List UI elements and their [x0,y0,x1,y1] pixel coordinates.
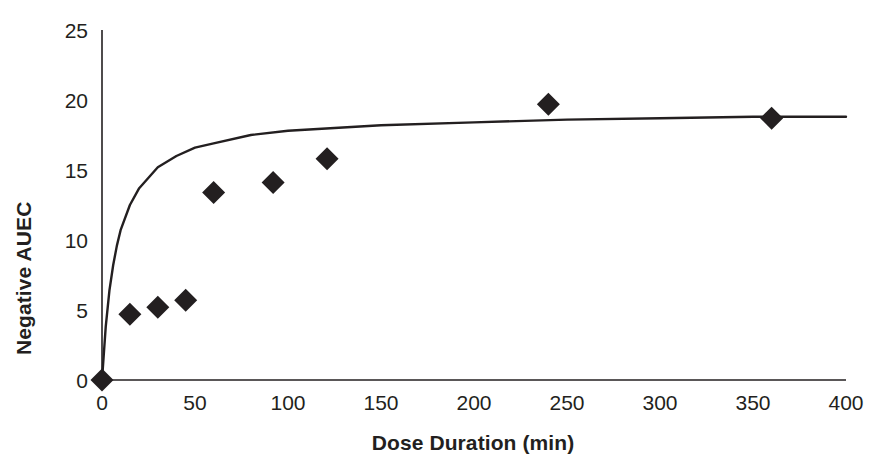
data-point-marker [146,296,169,319]
x-axis-tick-label: 250 [549,392,584,413]
x-axis-tick-label: 400 [828,392,863,413]
data-point-marker [537,93,560,116]
axis-lines [102,30,846,380]
x-axis-tick-label: 200 [456,392,491,413]
data-point-marker [174,289,197,312]
fitted-curve [102,117,846,380]
x-axis-title: Dose Duration (min) [372,431,575,455]
data-point-marker [316,147,339,170]
data-point-markers [91,93,784,392]
data-point-marker [262,171,285,194]
x-axis-tick-label: 50 [183,392,206,413]
y-axis-tick-label: 0 [40,370,88,391]
x-axis-tick-label: 150 [363,392,398,413]
x-axis-tick-label: 350 [735,392,770,413]
x-axis-tick-label: 300 [642,392,677,413]
x-axis-tick-label: 100 [270,392,305,413]
data-point-marker [118,303,141,326]
data-point-marker [91,369,114,392]
y-axis-tick-label: 10 [40,230,88,251]
data-point-marker [760,107,783,130]
chart-figure: 0510152025 050100150200250300350400 Nega… [0,0,889,473]
y-axis-tick-label: 25 [40,20,88,41]
y-axis-tick-label: 5 [40,300,88,321]
y-axis-tick-label: 20 [40,90,88,111]
y-axis-title: Negative AUEC [12,202,36,355]
x-axis-tick-label: 0 [96,392,108,413]
data-point-marker [202,181,225,204]
y-axis-tick-label: 15 [40,160,88,181]
